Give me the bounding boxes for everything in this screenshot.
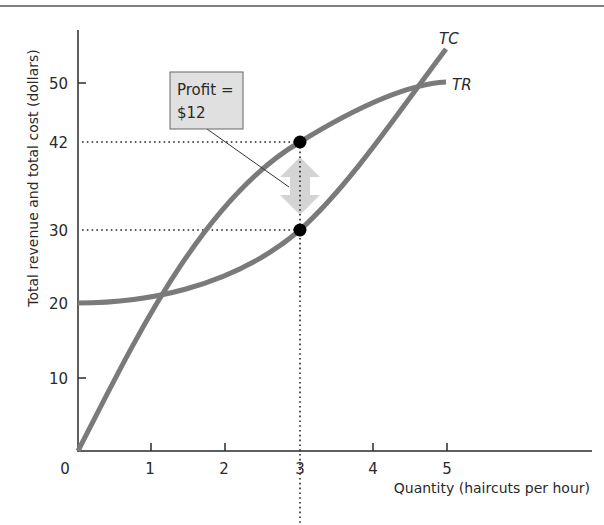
y-tick-label-10: 10 <box>49 370 68 388</box>
y-tick-label-42: 42 <box>49 134 68 152</box>
x-tick-label-5: 5 <box>442 460 452 478</box>
y-tick-label-30: 30 <box>49 222 68 240</box>
profit-annotation-line1: Profit = <box>177 81 233 99</box>
chart: 50 42 30 20 10 0 1 2 3 4 5 Quantity (hai… <box>0 0 604 525</box>
tr-point-q3 <box>294 136 307 149</box>
y-tick-label-50: 50 <box>49 75 68 93</box>
y-axis-title: Total revenue and total cost (dollars) <box>25 49 41 307</box>
tr-curve <box>78 82 446 451</box>
x-tick-label-1: 1 <box>145 460 155 478</box>
tr-label: TR <box>452 76 472 94</box>
x-axis-title: Quantity (haircuts per hour) <box>394 480 590 496</box>
profit-annotation-line2: $12 <box>177 104 206 122</box>
tc-label: TC <box>439 30 459 48</box>
y-tick-label-20: 20 <box>49 295 68 313</box>
x-tick-label-0: 0 <box>60 460 70 478</box>
tc-point-q3 <box>294 224 307 237</box>
x-tick-label-3: 3 <box>295 460 305 478</box>
tc-curve <box>78 49 446 303</box>
x-tick-label-4: 4 <box>368 460 378 478</box>
x-tick-label-2: 2 <box>219 460 229 478</box>
